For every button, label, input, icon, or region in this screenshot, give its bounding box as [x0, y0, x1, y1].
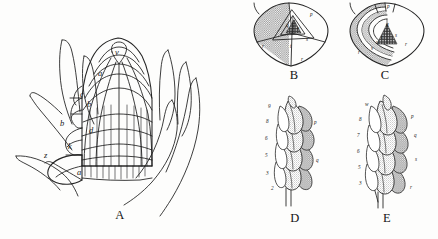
figure-c-label: v	[371, 46, 373, 51]
figure-a-label: c	[80, 90, 84, 99]
figure-c-label: s	[395, 33, 397, 38]
figure-a-label: v	[115, 48, 119, 57]
figure-e-caption: E	[374, 211, 400, 226]
figure-c-drawing	[337, 0, 433, 68]
figure-a: v a c b b d k z a	[0, 0, 232, 239]
figure-e-label: 7	[357, 133, 360, 138]
figure-a-apex-cells	[82, 38, 152, 180]
figure-e-label: 8	[359, 117, 362, 122]
figure-d-label: 2	[271, 186, 274, 191]
figure-a-label: b	[60, 119, 64, 128]
figure-d-caption: D	[282, 211, 308, 226]
figure-a-caption: A	[107, 208, 133, 223]
figure-c-label: u	[376, 40, 379, 45]
figure-c-label: t	[381, 35, 382, 40]
figure-d-label: p	[314, 120, 317, 125]
figure-d-label: q	[316, 158, 319, 163]
illustration-plate: v a c b b d k z a A	[0, 0, 438, 239]
figure-a-drawing	[0, 0, 232, 210]
figure-d-label: 3	[266, 171, 269, 176]
figure-b-label: p	[310, 12, 313, 17]
figure-e-label: 5	[358, 165, 361, 170]
figure-b-label: r	[262, 44, 264, 49]
figure-a-label: b	[87, 100, 91, 109]
figure-b-label: s	[306, 37, 308, 42]
figure-e-label: r	[410, 185, 412, 190]
figure-c-label: r	[405, 42, 407, 47]
figure-e-label: 6	[357, 149, 360, 154]
figure-c-caption: C	[372, 68, 398, 83]
figure-b-label: t	[290, 44, 291, 49]
figure-d-label: 5	[265, 153, 268, 158]
figure-d-label: 9	[268, 104, 271, 109]
figure-a-label: k	[68, 142, 72, 151]
figure-c-label: p	[387, 4, 390, 9]
figure-e-label: q	[414, 133, 417, 138]
figure-e-label: 3	[359, 181, 362, 186]
figure-d-label: 8	[266, 119, 269, 124]
figure-a-label: a	[77, 168, 81, 177]
figure-b-drawing	[245, 0, 337, 68]
figure-b-label: q	[286, 23, 289, 28]
figure-c-label: r	[358, 50, 360, 55]
figure-c-label: q	[386, 22, 389, 27]
figure-b-label: r	[301, 57, 303, 62]
figure-e-label: p	[411, 114, 414, 119]
figure-b-caption: B	[281, 68, 307, 83]
figure-d-label: 6	[265, 136, 268, 141]
figure-a-label: d	[89, 126, 93, 135]
figure-b-label: u	[297, 26, 299, 31]
figure-a-label: z	[44, 151, 47, 160]
figure-e-label: s	[415, 157, 417, 162]
figure-a-label: a	[98, 69, 102, 78]
figure-e-label: w	[365, 102, 368, 107]
